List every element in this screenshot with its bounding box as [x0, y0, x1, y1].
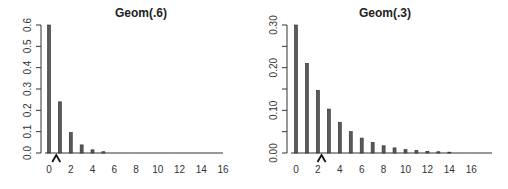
mean-marker-caret-icon — [318, 155, 326, 162]
chart-title: Geom(.6) — [115, 6, 167, 20]
chart-geom-0.3: Geom(.3) 0.000.100.200.300246810121416 — [268, 6, 492, 175]
x-tick-label: 2 — [315, 164, 321, 175]
x-tick-label: 16 — [466, 164, 478, 175]
bar — [393, 148, 396, 153]
bar — [48, 25, 51, 153]
bar — [338, 122, 341, 153]
bar — [295, 25, 298, 153]
figure: Geom(.6) 0.00.10.20.30.40.50.60246810121… — [0, 0, 508, 189]
y-tick-label: 0.5 — [22, 39, 33, 53]
chart-geom-0.6: Geom(.6) 0.00.10.20.30.40.50.60246810121… — [22, 6, 229, 175]
bar — [360, 138, 363, 153]
x-tick-label: 8 — [381, 164, 387, 175]
bar — [69, 133, 72, 153]
x-tick-label: 6 — [359, 164, 365, 175]
y-tick-label: 0.1 — [22, 124, 33, 138]
x-tick-label: 0 — [293, 164, 299, 175]
bar — [327, 109, 330, 153]
bar — [58, 102, 61, 153]
x-tick-label: 12 — [422, 164, 434, 175]
y-tick-label: 0.20 — [268, 57, 279, 77]
x-tick-label: 6 — [111, 164, 117, 175]
y-tick-label: 0.30 — [268, 15, 279, 35]
y-tick-label: 0.2 — [22, 103, 33, 117]
y-tick-label: 0.00 — [268, 143, 279, 163]
y-tick-label: 0.0 — [22, 146, 33, 160]
bar — [371, 142, 374, 153]
bar — [305, 63, 308, 153]
bar — [448, 152, 451, 153]
x-tick-label: 0 — [46, 164, 52, 175]
bar — [382, 146, 385, 153]
x-tick-label: 12 — [174, 164, 186, 175]
bar — [91, 150, 94, 153]
y-tick-label: 0.4 — [22, 60, 33, 74]
bar — [404, 150, 407, 153]
bar — [349, 132, 352, 153]
bar — [316, 90, 319, 153]
mean-marker-caret-icon — [52, 155, 60, 162]
bar — [102, 152, 105, 153]
x-tick-label: 8 — [133, 164, 139, 175]
x-tick-label: 4 — [337, 164, 343, 175]
x-tick-label: 16 — [218, 164, 230, 175]
bar — [415, 150, 418, 153]
y-tick-label: 0.3 — [22, 82, 33, 96]
bar — [437, 152, 440, 153]
x-tick-label: 4 — [90, 164, 96, 175]
charts-svg: Geom(.6) 0.00.10.20.30.40.50.60246810121… — [0, 0, 508, 189]
x-tick-label: 10 — [400, 164, 412, 175]
y-tick-label: 0.10 — [268, 100, 279, 120]
y-tick-label: 0.6 — [22, 18, 33, 32]
x-tick-label: 14 — [196, 164, 208, 175]
x-tick-label: 10 — [152, 164, 164, 175]
x-tick-label: 2 — [68, 164, 74, 175]
bar — [426, 151, 429, 153]
x-tick-label: 14 — [444, 164, 456, 175]
bar — [80, 145, 83, 153]
chart-title: Geom(.3) — [359, 6, 411, 20]
